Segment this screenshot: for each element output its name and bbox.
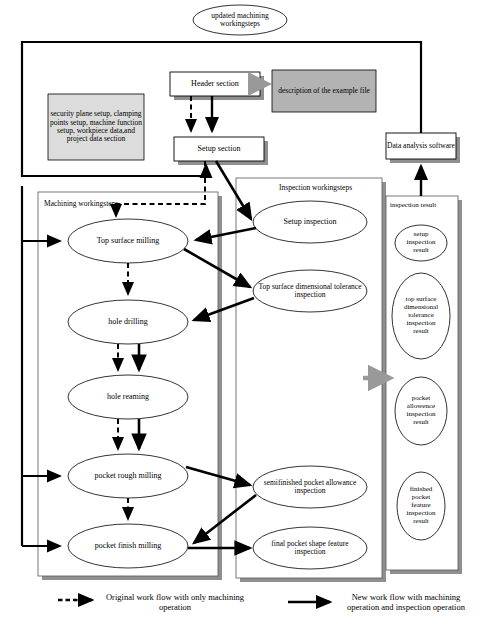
description-box-fill (272, 70, 376, 112)
machining-container-label: Machining workingsteps (44, 199, 118, 208)
title-ellipse (193, 5, 287, 35)
legend-dashed-label: Original work flow with only machining o… (100, 592, 250, 613)
security-block-fill (48, 94, 144, 160)
data-analysis-box (386, 133, 456, 159)
setup-section-box (174, 137, 264, 161)
legend-solid-label: New work flow with machining operation a… (336, 592, 476, 613)
header-section-box (170, 72, 260, 96)
diagram-canvas: updated machining workingsteps Header se… (0, 0, 480, 641)
result-container-label: inspection result (390, 201, 436, 209)
diagram-graphics-layer (0, 0, 480, 641)
inspection-container-label: Inspection workingsteps (279, 183, 352, 192)
